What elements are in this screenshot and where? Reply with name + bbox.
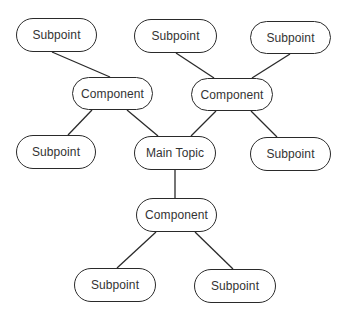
- edge-c2-sp5: [251, 111, 277, 137]
- node-label: Component: [145, 208, 208, 222]
- edge-sp1-c1: [52, 52, 110, 77]
- node-label: Subpoint: [211, 279, 259, 293]
- node-sp3: Subpoint: [250, 21, 331, 54]
- edge-c1-main: [127, 110, 158, 136]
- node-sp7: Subpoint: [194, 269, 276, 303]
- node-label: Subpoint: [32, 28, 80, 42]
- node-c2: Component: [191, 78, 273, 111]
- edge-c2-main: [191, 111, 216, 136]
- edge-sp2-c2: [176, 53, 214, 78]
- node-label: Component: [201, 88, 264, 102]
- node-c3: Component: [136, 198, 217, 232]
- node-sp4: Subpoint: [16, 135, 96, 169]
- edge-sp3-c2: [252, 54, 290, 78]
- node-sp1: Subpoint: [16, 18, 97, 52]
- node-sp5: Subpoint: [250, 137, 331, 171]
- edge-c3-sp7: [195, 232, 233, 269]
- edge-c3-sp6: [117, 232, 156, 268]
- node-main: Main Topic: [134, 136, 216, 170]
- edge-c1-sp4: [68, 110, 92, 135]
- node-label: Main Topic: [146, 146, 204, 160]
- node-c1: Component: [72, 77, 153, 110]
- node-label: Subpoint: [32, 145, 80, 159]
- node-sp2: Subpoint: [134, 19, 217, 53]
- node-label: Subpoint: [91, 278, 139, 292]
- node-sp6: Subpoint: [74, 268, 156, 302]
- node-label: Subpoint: [266, 147, 314, 161]
- node-label: Component: [81, 87, 144, 101]
- node-label: Subpoint: [266, 31, 314, 45]
- node-label: Subpoint: [151, 29, 199, 43]
